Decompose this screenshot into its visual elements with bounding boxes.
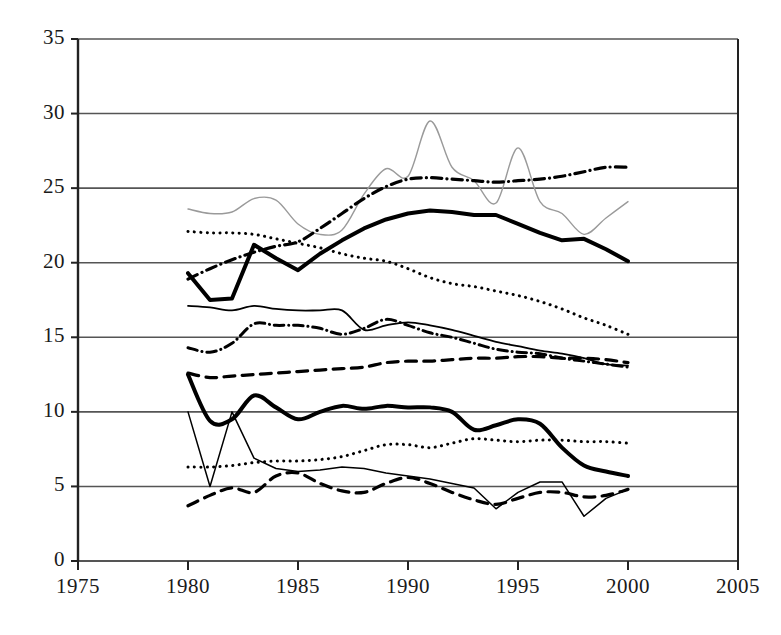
y-axis-tick-label-35: 35	[43, 25, 65, 50]
series-line-7	[188, 356, 628, 377]
x-axis-tick-label-1985: 1985	[258, 574, 338, 599]
y-axis-tick-label-10: 10	[43, 398, 65, 423]
x-axis-tick-label-2005: 2005	[698, 574, 778, 599]
x-axis-tick-label-1990: 1990	[368, 574, 448, 599]
line-chart: 0510152025303519751980198519901995200020…	[0, 0, 781, 635]
series-line-9	[188, 412, 628, 516]
chart-plot-area	[0, 0, 781, 635]
y-axis-tick-label-20: 20	[43, 249, 65, 274]
series-line-8	[188, 375, 628, 476]
series-line-3	[188, 211, 628, 300]
y-axis-tick-label-0: 0	[54, 547, 65, 572]
y-axis-tick-label-30: 30	[43, 100, 65, 125]
axes	[71, 39, 738, 570]
y-axis-tick-label-5: 5	[54, 472, 65, 497]
x-axis-tick-label-1995: 1995	[478, 574, 558, 599]
x-axis-tick-label-1975: 1975	[38, 574, 118, 599]
series-line-1	[188, 121, 628, 235]
gridlines	[78, 39, 738, 561]
series-line-11	[188, 472, 628, 505]
y-axis-tick-label-15: 15	[43, 323, 65, 348]
x-axis-tick-label-2000: 2000	[588, 574, 668, 599]
series-group	[188, 121, 628, 516]
x-axis-tick-label-1980: 1980	[148, 574, 228, 599]
series-line-10	[188, 439, 628, 468]
y-axis-tick-label-25: 25	[43, 174, 65, 199]
